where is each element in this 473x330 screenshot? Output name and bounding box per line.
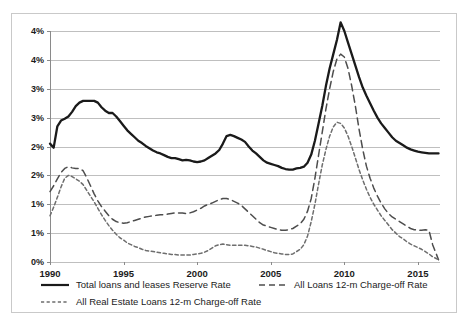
y-axis-tick-label: 3% [31, 113, 44, 122]
y-axis-tick-label: 1% [31, 229, 44, 238]
legend-entry-total-loans-reserve-rate: Total loans and leases Reserve Rate [40, 279, 258, 290]
legend-swatch-dashed-short-icon [40, 297, 70, 307]
x-axis-tick-mark [197, 262, 198, 265]
y-axis-tick-label: 4% [31, 27, 44, 36]
plot-area: 4%4%3%3%2%2%1%1%0% 199019952000200520102… [50, 31, 440, 262]
x-axis-tick-mark [271, 262, 272, 265]
series-line [50, 54, 439, 260]
legend-row-2: All Real Estate Loans 12-m Charge-off Ra… [40, 293, 440, 310]
x-axis-tick-mark [344, 262, 345, 265]
chart-figure: 4%4%3%3%2%2%1%1%0% 199019952000200520102… [11, 13, 457, 313]
y-axis-tick-label: 2% [31, 171, 44, 180]
x-axis-tick-mark [50, 262, 51, 265]
legend-label-total-loans-reserve-rate: Total loans and leases Reserve Rate [76, 279, 231, 290]
x-axis-tick-mark [124, 262, 125, 265]
y-axis-tick-label: 3% [31, 84, 44, 93]
legend-row-1: Total loans and leases Reserve Rate All … [40, 276, 440, 293]
y-axis-tick-label: 4% [31, 55, 44, 64]
series-lines [50, 31, 440, 262]
x-axis-tick-mark [418, 262, 419, 265]
legend-entry-real-estate-loans-chargeoff-rate: All Real Estate Loans 12-m Charge-off Ra… [40, 296, 261, 307]
legend-label-all-loans-chargeoff-rate: All Loans 12-m Charge-off Rate [294, 279, 427, 290]
series-line [50, 122, 439, 259]
chart-legend: Total loans and leases Reserve Rate All … [40, 276, 440, 310]
legend-swatch-dashed-long-icon [258, 280, 288, 290]
y-axis-tick-label: 1% [31, 200, 44, 209]
y-axis-tick-label: 0% [31, 258, 44, 267]
legend-entry-all-loans-chargeoff-rate: All Loans 12-m Charge-off Rate [258, 279, 427, 290]
legend-label-real-estate-loans-chargeoff-rate: All Real Estate Loans 12-m Charge-off Ra… [76, 296, 261, 307]
gridline [50, 262, 440, 263]
y-axis-tick-label: 2% [31, 142, 44, 151]
legend-swatch-solid-icon [40, 280, 70, 290]
series-line [50, 22, 439, 169]
